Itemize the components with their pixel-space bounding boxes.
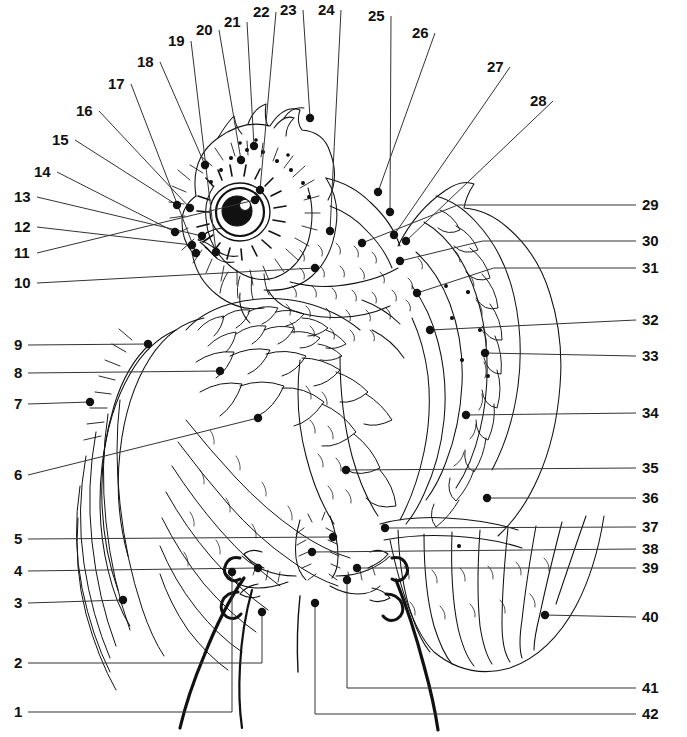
label-number-34: 34: [642, 405, 658, 420]
leader-line-19: [191, 41, 216, 252]
leader-dot-41: [343, 576, 351, 584]
leader-dot-9: [144, 340, 152, 348]
leader-dot-2: [258, 608, 266, 616]
label-number-22: 22: [253, 4, 269, 19]
owl-body-art: [76, 104, 604, 730]
label-number-10: 10: [14, 275, 30, 290]
leader-dot-7: [86, 398, 94, 406]
leader-dot-31: [413, 289, 421, 297]
label-number-36: 36: [642, 490, 658, 505]
label-number-39: 39: [642, 560, 658, 575]
label-number-32: 32: [642, 312, 658, 327]
leader-line-25: [390, 16, 391, 212]
label-number-8: 8: [14, 365, 22, 380]
leader-dot-21: [250, 142, 258, 150]
leader-dot-25: [386, 208, 394, 216]
leader-dot-40: [541, 611, 549, 619]
leader-dot-26: [374, 188, 382, 196]
label-number-37: 37: [642, 519, 658, 534]
label-number-5: 5: [14, 531, 22, 546]
leader-line-1: [28, 572, 232, 712]
leader-line-27: [394, 67, 510, 235]
leader-dot-28: [402, 237, 410, 245]
leader-line-24: [330, 10, 341, 231]
leader-line-8: [28, 371, 220, 373]
label-number-19: 19: [168, 33, 184, 48]
leader-line-12: [37, 227, 192, 245]
label-number-41: 41: [642, 680, 658, 695]
leader-dot-17: [192, 249, 200, 257]
leader-dot-14: [171, 228, 179, 236]
leader-dot-16: [186, 204, 194, 212]
leader-line-5: [28, 537, 333, 539]
label-number-9: 9: [14, 337, 22, 352]
leader-line-30: [400, 241, 636, 261]
label-number-2: 2: [14, 655, 22, 670]
leader-line-2: [28, 612, 262, 663]
label-number-33: 33: [642, 348, 658, 363]
leader-line-15: [75, 140, 177, 205]
leader-dot-32: [426, 326, 434, 334]
leader-line-32: [430, 320, 636, 330]
label-number-15: 15: [52, 132, 68, 147]
leader-line-35: [346, 468, 636, 470]
label-number-4: 4: [14, 563, 22, 578]
leader-dot-33: [481, 349, 489, 357]
leader-dot-6: [254, 414, 262, 422]
leader-dot-36: [483, 494, 491, 502]
leader-line-9: [28, 344, 148, 345]
label-number-31: 31: [642, 260, 658, 275]
label-number-23: 23: [280, 2, 296, 17]
leader-dot-22: [256, 186, 264, 194]
leader-dot-19: [212, 248, 220, 256]
leader-line-6: [28, 418, 258, 475]
leader-dot-5: [329, 533, 337, 541]
leader-line-18: [160, 62, 205, 165]
leader-dot-23: [306, 114, 314, 122]
label-number-11: 11: [14, 245, 29, 260]
leader-line-20: [219, 30, 241, 160]
leader-line-40: [545, 615, 636, 617]
figure-plate: 1234567891011121314151617181920212223242…: [0, 0, 687, 737]
owl-anatomy-illustration: [0, 0, 687, 737]
leader-dot-13: [198, 232, 206, 240]
leader-line-23: [303, 10, 310, 118]
leader-line-10: [37, 268, 315, 283]
leader-dot-30: [396, 257, 404, 265]
leader-line-42: [315, 603, 636, 714]
label-number-25: 25: [368, 8, 384, 23]
leader-dot-29: [358, 239, 366, 247]
label-number-20: 20: [196, 22, 212, 37]
leader-dot-34: [462, 411, 470, 419]
leader-dot-35: [342, 466, 350, 474]
label-number-38: 38: [642, 541, 658, 556]
leader-dot-4: [254, 564, 262, 572]
leader-line-3: [28, 600, 123, 603]
label-number-16: 16: [76, 103, 92, 118]
label-number-7: 7: [14, 396, 22, 411]
leader-line-38: [312, 549, 636, 552]
leader-dot-15: [173, 201, 181, 209]
label-number-1: 1: [14, 704, 22, 719]
leader-dot-8: [216, 367, 224, 375]
leader-line-16: [99, 111, 190, 208]
label-number-3: 3: [14, 595, 22, 610]
leader-dot-18: [201, 161, 209, 169]
label-number-21: 21: [224, 14, 240, 29]
label-number-29: 29: [642, 197, 658, 212]
label-number-27: 27: [487, 59, 503, 74]
label-number-24: 24: [318, 2, 334, 17]
leader-dot-10: [311, 264, 319, 272]
label-number-42: 42: [642, 706, 658, 721]
label-number-17: 17: [108, 76, 124, 91]
leader-lines: [28, 10, 636, 714]
label-number-35: 35: [642, 460, 658, 475]
leader-line-31: [417, 268, 636, 293]
leader-line-26: [378, 33, 435, 192]
leader-dot-20: [237, 156, 245, 164]
leader-dot-3: [119, 596, 127, 604]
leader-line-34: [466, 413, 636, 415]
label-number-18: 18: [137, 54, 153, 69]
leader-dot-37: [381, 524, 389, 532]
leader-dot-11: [251, 196, 259, 204]
